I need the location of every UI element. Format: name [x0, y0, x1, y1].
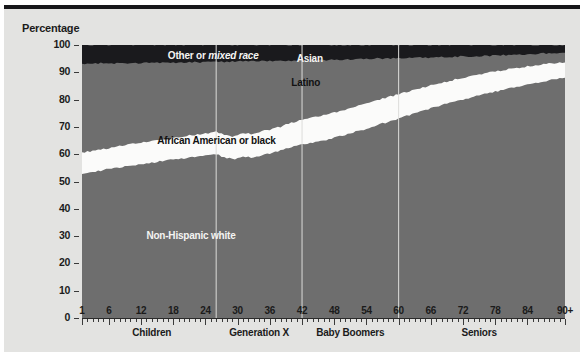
- x-axis-minor-tick: [291, 319, 292, 322]
- x-axis-minor-tick: [560, 319, 561, 322]
- x-axis-minor-tick: [168, 319, 169, 322]
- x-axis-minor-tick: [538, 319, 539, 322]
- x-axis-minor-tick: [313, 319, 314, 322]
- x-axis-minor-tick: [490, 319, 491, 322]
- x-axis-tick-label: 48: [319, 305, 349, 316]
- x-axis-minor-tick: [474, 319, 475, 322]
- x-axis-minor-tick: [361, 319, 362, 322]
- x-axis-minor-tick: [442, 319, 443, 322]
- x-axis-major-tick: [495, 319, 496, 325]
- x-axis-tick-label: 6: [94, 305, 124, 316]
- x-axis-tick-label: 60: [384, 305, 414, 316]
- x-axis-major-tick: [431, 319, 432, 325]
- x-axis-major-tick: [109, 319, 110, 325]
- y-axis-tick-mark: [74, 127, 79, 128]
- y-axis-tick-mark: [74, 209, 79, 210]
- chart-page: Percentage 0102030405060708090100 Other …: [0, 0, 584, 352]
- series-annotation-label: Other or mixed race: [168, 50, 259, 61]
- x-axis-minor-tick: [549, 319, 550, 322]
- x-axis-minor-tick: [216, 319, 217, 322]
- y-axis-tick-mark: [74, 100, 79, 101]
- y-axis-tick-mark: [74, 236, 79, 237]
- series-annotation-label: African American or black: [157, 135, 276, 146]
- x-axis-tick-label: 54: [351, 305, 381, 316]
- x-axis-minor-tick: [501, 319, 502, 322]
- x-axis-minor-tick: [506, 319, 507, 322]
- x-axis-major-tick: [399, 319, 400, 325]
- x-axis-tick-label: 90+: [550, 305, 580, 316]
- y-axis-tick-label: 20: [38, 256, 70, 268]
- x-axis-minor-tick: [248, 319, 249, 322]
- x-axis-minor-tick: [324, 319, 325, 322]
- y-axis-tick-label: 10: [38, 284, 70, 296]
- x-axis-tick-label: 42: [287, 305, 317, 316]
- x-axis-minor-tick: [87, 319, 88, 322]
- x-axis-minor-tick: [522, 319, 523, 322]
- x-axis-minor-tick: [345, 319, 346, 322]
- x-axis-tick-label: 72: [448, 305, 478, 316]
- x-axis-major-tick: [366, 319, 367, 325]
- y-axis-tick-mark: [74, 154, 79, 155]
- y-axis-tick-label: 90: [38, 65, 70, 77]
- x-axis-minor-tick: [103, 319, 104, 322]
- top-rule-divider: [4, 5, 580, 9]
- x-axis-minor-tick: [329, 319, 330, 322]
- x-axis-minor-tick: [179, 319, 180, 322]
- y-axis-tick-mark: [74, 318, 79, 319]
- y-axis-tick-label: 100: [38, 38, 70, 50]
- x-axis-minor-tick: [254, 319, 255, 322]
- x-axis-minor-tick: [425, 319, 426, 322]
- x-axis-minor-tick: [184, 319, 185, 322]
- x-axis-minor-tick: [485, 319, 486, 322]
- x-axis-minor-tick: [93, 319, 94, 322]
- x-axis-minor-tick: [340, 319, 341, 322]
- x-axis-minor-tick: [383, 319, 384, 322]
- x-axis-minor-tick: [436, 319, 437, 322]
- x-axis-major-tick: [463, 319, 464, 325]
- generation-label: Children: [92, 327, 212, 338]
- x-axis-tick-label: 78: [480, 305, 510, 316]
- series-annotation-label: Non-Hispanic white: [146, 230, 235, 241]
- plot-svg: [82, 45, 565, 318]
- x-axis-minor-tick: [479, 319, 480, 322]
- x-axis-tick-label: 18: [158, 305, 188, 316]
- x-axis-minor-tick: [533, 319, 534, 322]
- x-axis-minor-tick: [409, 319, 410, 322]
- x-axis-tick-label: 84: [512, 305, 542, 316]
- x-axis-major-tick: [141, 319, 142, 325]
- x-axis-minor-tick: [243, 319, 244, 322]
- x-axis-minor-tick: [211, 319, 212, 322]
- x-axis-minor-tick: [377, 319, 378, 322]
- x-axis-tick-label: 36: [255, 305, 285, 316]
- x-axis-major-tick: [565, 319, 566, 325]
- generation-label: Baby Boomers: [290, 327, 410, 338]
- y-axis-tick-label: 60: [38, 147, 70, 159]
- y-axis-title: Percentage: [22, 22, 79, 34]
- x-axis-minor-tick: [388, 319, 389, 322]
- x-axis-minor-tick: [264, 319, 265, 322]
- x-axis-minor-tick: [468, 319, 469, 322]
- y-axis-tick-mark: [74, 72, 79, 73]
- x-axis-major-tick: [270, 319, 271, 325]
- x-axis-minor-tick: [136, 319, 137, 322]
- page-margin-left: [0, 0, 4, 352]
- x-axis-minor-tick: [275, 319, 276, 322]
- x-axis-minor-tick: [146, 319, 147, 322]
- x-axis-minor-tick: [404, 319, 405, 322]
- x-axis-minor-tick: [372, 319, 373, 322]
- x-axis-major-tick: [527, 319, 528, 325]
- x-axis-minor-tick: [232, 319, 233, 322]
- x-axis-tick-label: 66: [416, 305, 446, 316]
- x-axis-major-tick: [82, 319, 83, 325]
- x-axis-minor-tick: [152, 319, 153, 322]
- x-axis-minor-tick: [307, 319, 308, 322]
- x-axis-minor-tick: [511, 319, 512, 322]
- x-axis-minor-tick: [163, 319, 164, 322]
- x-axis-minor-tick: [195, 319, 196, 322]
- x-axis-minor-tick: [458, 319, 459, 322]
- x-axis-tick-label: 30: [223, 305, 253, 316]
- series-annotation-label: Latino: [291, 77, 320, 88]
- x-axis-minor-tick: [222, 319, 223, 322]
- y-axis-tick-label: 30: [38, 229, 70, 241]
- x-axis-minor-tick: [554, 319, 555, 322]
